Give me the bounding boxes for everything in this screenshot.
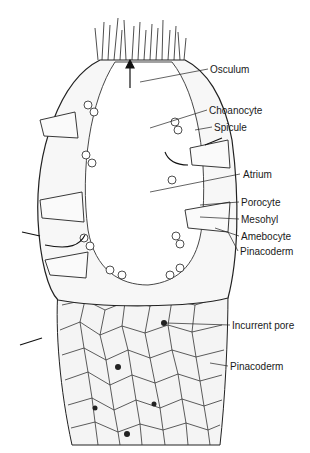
label-pinacoderm-upper: Pinacoderm	[240, 246, 293, 257]
label-mesohyl: Mesohyl	[241, 214, 278, 225]
label-pinacoderm-lower: Pinacoderm	[230, 361, 283, 372]
label-spicule: Spicule	[214, 122, 247, 133]
label-porocyte: Porocyte	[241, 197, 280, 208]
label-atrium: Atrium	[243, 169, 272, 180]
lower-body-outline	[57, 290, 228, 445]
osculum-bristles	[95, 18, 186, 60]
label-incurrent-pore: Incurrent pore	[232, 320, 294, 331]
label-choanocyte: Choanocyte	[209, 105, 262, 116]
label-osculum: Osculum	[210, 64, 249, 75]
sponge-diagram	[0, 0, 310, 453]
atrium-cavity	[85, 62, 203, 285]
label-amebocyte: Amebocyte	[241, 231, 291, 242]
